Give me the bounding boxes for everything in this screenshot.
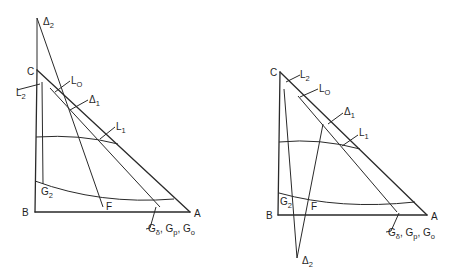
vertex-c-label: C [27,66,34,77]
l2-to-delta2-line [284,89,297,258]
l0-leader [300,89,318,97]
g2-curve [35,181,174,200]
g2-label: G2 [41,186,53,200]
delta2-label: Δ2 [302,255,313,269]
f-label: F [106,201,112,212]
delta2-to-delta1-line [297,124,323,258]
l1-curve [36,136,118,144]
delta1-leader [328,113,343,124]
vertex-c-label: C [270,67,277,78]
l2-leader [286,75,300,82]
left-diagram: Δ2 C L2 LO Δ1 L1 G2 F B A Gδ, Gp, Go [16,16,201,237]
g2-curve [279,193,415,205]
vertex-b-label: B [22,207,29,218]
vertex-b-label: B [266,210,273,221]
edge-ca [37,70,190,212]
l0-label: LO [319,83,331,97]
vertex-a-label: A [431,211,438,222]
l0-label: LO [71,75,83,89]
l0-line [50,88,160,207]
g-group-label: Gδ, Gp, Go [148,223,195,237]
delta1-label: Δ1 [89,94,100,108]
f-label: F [311,201,317,212]
delta2-label: Δ2 [43,16,54,30]
right-diagram: C L2 LO Δ1 L1 G2 F B A Gδ, Gp, Go Δ2 [266,67,438,269]
l1-label: L1 [359,127,369,141]
vertex-a-label: A [194,208,201,219]
g2-label: G2 [280,196,292,210]
phase-diagram-figure: Δ2 C L2 LO Δ1 L1 G2 F B A Gδ, Gp, Go [0,0,459,275]
l2-label: L2 [16,87,26,101]
g-group-label: Gδ, Gp, Go [388,227,435,241]
l1-leader [100,127,115,139]
l2-label: L2 [300,69,310,83]
l2-line [42,82,43,184]
delta1-label: Δ1 [344,106,355,120]
l1-leader [342,135,358,146]
edge-ca [280,72,427,215]
edge-cb [35,70,37,212]
delta2-to-f-line [37,18,103,207]
l1-label: L1 [116,121,126,135]
